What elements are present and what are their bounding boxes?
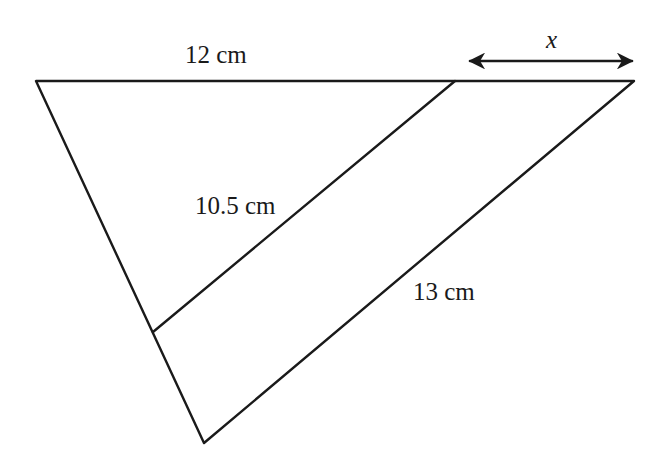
label-10-5cm: 10.5 cm xyxy=(195,192,276,219)
label-x: x xyxy=(545,26,557,53)
triangle-diagram: 12 cm x 10.5 cm 13 cm xyxy=(0,0,671,473)
outer-triangle xyxy=(36,81,634,443)
label-12cm: 12 cm xyxy=(185,41,247,68)
label-13cm: 13 cm xyxy=(413,278,475,305)
